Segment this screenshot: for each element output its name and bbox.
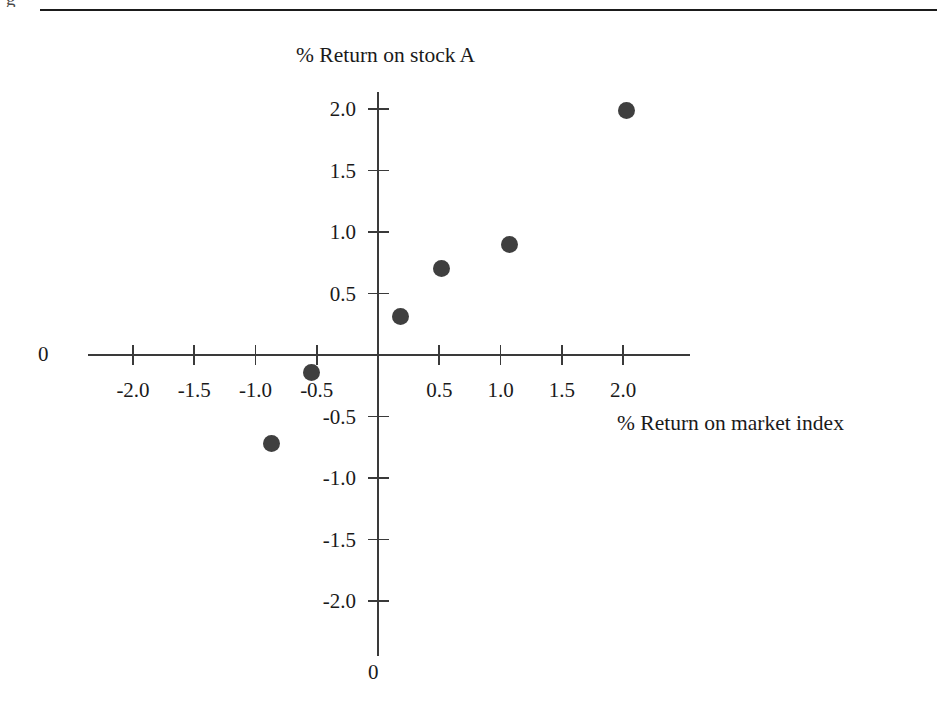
x-axis-tick-label: -1.0 [239,380,272,401]
x-axis-tick [561,345,563,365]
x-axis-tick [193,345,195,365]
y-axis-tick-label: -1.5 [250,529,356,550]
x-axis-tick-label: 2.0 [610,380,636,401]
y-axis-tick-label: 0.5 [250,283,356,304]
x-axis-tick [438,345,440,365]
x-axis-tick [316,345,318,365]
y-axis-tick-label: 1.5 [250,160,356,181]
x-axis-line [88,354,690,356]
scatter-point [303,364,320,381]
x-axis-tick [255,345,257,365]
y-axis-tick [368,539,389,541]
y-axis-tick [368,170,389,172]
y-axis-tick [368,416,389,418]
figure-container: g % Return on stock A % Return on market… [0,0,937,715]
x-axis-origin-label: 0 [38,344,49,365]
y-axis-tick [368,231,389,233]
y-axis-tick [368,477,389,479]
y-axis-tick-label: -1.0 [250,468,356,489]
y-axis-tick-label: 1.0 [250,222,356,243]
scatter-point [433,260,450,277]
scatter-point [392,308,409,325]
y-axis-line [377,92,379,656]
scatter-point [618,102,635,119]
x-axis-tick-label: -1.5 [178,380,211,401]
scatter-point [263,435,280,452]
y-axis-title: % Return on stock A [296,44,475,66]
x-axis-tick [500,345,502,365]
y-axis-tick-label: -2.0 [250,591,356,612]
x-axis-tick-label: -0.5 [300,380,333,401]
x-axis-tick [132,345,134,365]
y-axis-tick [368,293,389,295]
x-axis-tick-label: 1.0 [487,380,513,401]
x-axis-tick-label: -2.0 [116,380,149,401]
x-axis-tick-label: 1.5 [549,380,575,401]
y-axis-tick [368,600,389,602]
y-axis-tick [368,108,389,110]
x-axis-tick [622,345,624,365]
y-axis-tick-label: 2.0 [250,99,356,120]
scatter-plot: % Return on stock A % Return on market i… [0,0,937,715]
x-axis-title: % Return on market index [617,412,844,434]
x-axis-tick-label: 0.5 [426,380,452,401]
scatter-point [501,236,518,253]
y-axis-tick-label: -0.5 [250,406,356,427]
y-axis-origin-label: 0 [368,662,379,683]
